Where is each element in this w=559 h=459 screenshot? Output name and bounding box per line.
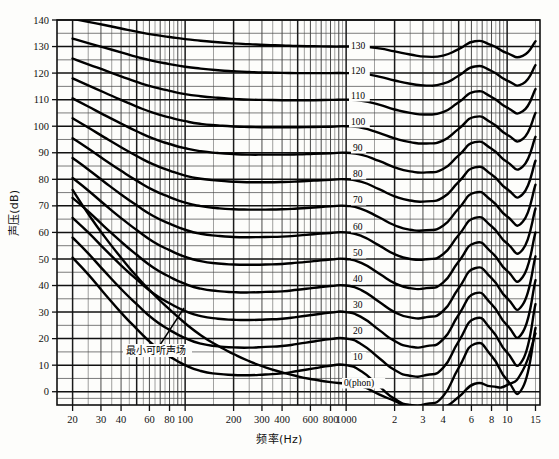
svg-text:8: 8 [489,414,494,425]
svg-text:30: 30 [353,300,363,310]
svg-text:50: 50 [353,248,363,258]
svg-text:3: 3 [420,414,425,425]
svg-text:200: 200 [226,414,242,425]
svg-text:70: 70 [353,195,363,205]
svg-text:20: 20 [39,333,50,344]
svg-text:70: 70 [39,200,50,211]
svg-text:60: 60 [353,222,363,232]
x-axis-title: 频率(Hz) [0,430,559,446]
svg-text:2: 2 [392,414,397,425]
svg-text:最小可听声场: 最小可听声场 [126,344,186,356]
x-tick-labels: 2030406080100200300400600800100023468101… [67,414,540,425]
svg-text:50: 50 [39,254,50,265]
svg-text:100: 100 [351,117,366,127]
svg-text:1000: 1000 [336,414,357,425]
svg-text:300: 300 [254,414,270,425]
svg-text:15: 15 [530,414,541,425]
svg-text:400: 400 [274,414,290,425]
svg-text:10: 10 [502,414,513,425]
svg-text:140: 140 [33,15,49,26]
svg-text:100: 100 [33,121,49,132]
svg-text:40: 40 [353,274,363,284]
svg-text:4: 4 [440,414,446,425]
svg-text:30: 30 [96,414,107,425]
svg-text:90: 90 [39,147,50,158]
svg-text:40: 40 [39,280,50,291]
svg-text:40: 40 [116,414,127,425]
svg-text:60: 60 [144,414,155,425]
svg-text:110: 110 [34,94,49,105]
svg-text:100: 100 [177,414,193,425]
svg-text:130: 130 [33,41,49,52]
svg-text:20: 20 [353,326,363,336]
svg-text:30: 30 [39,307,50,318]
svg-text:0: 0 [44,386,49,397]
svg-text:20: 20 [67,414,78,425]
svg-text:110: 110 [351,91,365,101]
svg-text:10: 10 [353,352,363,362]
svg-text:130: 130 [351,41,366,51]
y-axis-title: 声压(dB) [5,178,21,248]
svg-text:120: 120 [33,68,49,79]
equal-loudness-contour-figure: 1301201101009080706050403020100(phon) 20… [0,0,559,459]
svg-text:80: 80 [39,174,50,185]
y-tick-labels: 0102030405060708090100110120130140 [33,15,49,398]
svg-text:80: 80 [164,414,175,425]
svg-text:600: 600 [303,414,319,425]
svg-text:120: 120 [351,66,366,76]
svg-text:90: 90 [353,143,363,153]
svg-text:6: 6 [469,414,474,425]
svg-text:10: 10 [39,360,50,371]
svg-text:60: 60 [39,227,50,238]
svg-text:80: 80 [353,169,363,179]
svg-text:0(phon): 0(phon) [344,378,374,389]
chart-canvas: 1301201101009080706050403020100(phon) 20… [0,0,559,459]
